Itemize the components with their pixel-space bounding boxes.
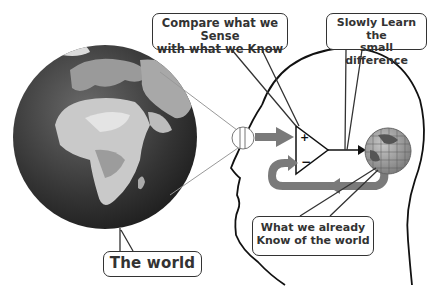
- earth-globe: [13, 44, 197, 229]
- callout-world: The world: [103, 251, 202, 277]
- callout-compare-line1: Compare what we Sense: [153, 17, 287, 43]
- callout-know-line2: Know of the world: [253, 235, 373, 248]
- callout-learn-line1: Slowly Learn the: [327, 17, 426, 42]
- callout-world-label: The world: [104, 255, 201, 272]
- sense-arrow: [255, 127, 294, 147]
- know-pointer: [300, 168, 378, 216]
- callout-learn-line2: small difference: [327, 42, 426, 67]
- plus-sign: +: [300, 131, 309, 144]
- callout-learn: Slowly Learn the small difference: [326, 13, 427, 50]
- callout-know-line1: What we already: [253, 222, 373, 235]
- minus-sign: −: [301, 155, 311, 169]
- mini-globe-icon: [365, 128, 411, 174]
- callout-compare: Compare what we Sense with what we Know: [152, 13, 288, 50]
- eye-icon: [232, 127, 254, 149]
- world-pointer: [120, 228, 133, 251]
- compare-pointer: [232, 50, 299, 126]
- callout-compare-line2: with what we Know: [153, 43, 287, 56]
- callout-know: What we already Know of the world: [252, 216, 374, 256]
